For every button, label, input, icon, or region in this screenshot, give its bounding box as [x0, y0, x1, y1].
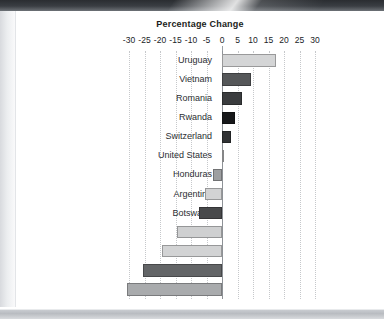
- bar-row: United States: [16, 146, 384, 165]
- bar-rows: UruguayVietnamRomaniaRwandaSwitzerlandUn…: [16, 51, 384, 299]
- chart-title: Percentage Change: [16, 19, 384, 29]
- bar-cambodia: [143, 264, 222, 276]
- bar-argentina: [205, 188, 222, 200]
- x-tick-label-0: 0: [220, 35, 225, 45]
- bar-ivory-coast: [127, 283, 222, 295]
- scan-left-margin: [0, 11, 16, 307]
- x-tick-label-5: 5: [235, 35, 240, 45]
- bar-row: Cambodia: [16, 261, 384, 280]
- scan-glare: [168, 0, 324, 11]
- bar-honduras: [213, 169, 222, 181]
- x-tick-label-minus20: -20: [154, 35, 166, 45]
- bar-vietnam: [222, 73, 251, 85]
- x-tick-label-15: 15: [264, 35, 273, 45]
- bar-romania: [222, 92, 242, 104]
- bar-botswana: [199, 207, 222, 219]
- plot-area: -30-25-20-15-10-5051015202530 UruguayVie…: [16, 35, 384, 299]
- category-label-romania: Romania: [176, 89, 212, 108]
- bar-row: Romania: [16, 89, 384, 108]
- scan-top-edge: [0, 0, 384, 11]
- category-label-rwanda: Rwanda: [179, 108, 212, 127]
- bar-uruguay: [222, 54, 276, 66]
- bar-row: Honduras: [16, 165, 384, 184]
- bar-switzerland: [222, 131, 231, 143]
- bar-united-states: [222, 150, 224, 162]
- bar-row: Ivory Coast: [16, 280, 384, 299]
- x-tick-label-minus15: -15: [169, 35, 181, 45]
- bar-row: Vietnam: [16, 70, 384, 89]
- bar-rwanda: [222, 112, 235, 124]
- x-tick-label-25: 25: [295, 35, 304, 45]
- bar-row: Benin: [16, 223, 384, 242]
- bar-chart: Percentage Change -30-25-20-15-10-505101…: [16, 11, 384, 307]
- x-tick-label-minus30: -30: [123, 35, 135, 45]
- category-label-vietnam: Vietnam: [179, 70, 212, 89]
- bar-row: Rwanda: [16, 108, 384, 127]
- screenshot-root: Percentage Change -30-25-20-15-10-505101…: [0, 0, 384, 325]
- x-tick-label-minus5: -5: [203, 35, 211, 45]
- scan-bottom-edge: [0, 310, 384, 319]
- bar-benin: [177, 226, 222, 238]
- bar-gambia: [162, 245, 222, 257]
- bar-row: Argentina: [16, 185, 384, 204]
- x-axis-tick-labels: -30-25-20-15-10-5051015202530: [16, 35, 384, 51]
- category-label-honduras: Honduras: [173, 165, 212, 184]
- x-tick-label-30: 30: [310, 35, 319, 45]
- x-tick-label-10: 10: [248, 35, 257, 45]
- x-tick-label-minus10: -10: [185, 35, 197, 45]
- category-label-uruguay: Uruguay: [178, 51, 212, 70]
- x-tick-label-20: 20: [279, 35, 288, 45]
- bar-row: Uruguay: [16, 51, 384, 70]
- category-label-united-states: United States: [158, 146, 212, 165]
- x-tick-label-minus25: -25: [138, 35, 150, 45]
- bar-row: Gambia: [16, 242, 384, 261]
- scan-bottom-area: [0, 307, 384, 325]
- bar-row: Botswana: [16, 204, 384, 223]
- category-label-switzerland: Switzerland: [165, 127, 212, 146]
- bar-row: Switzerland: [16, 127, 384, 146]
